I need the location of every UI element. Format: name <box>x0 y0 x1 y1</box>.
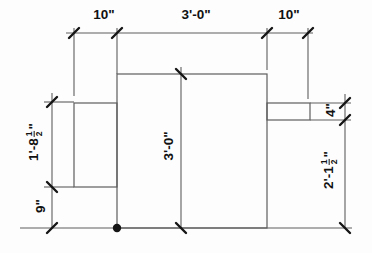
dim-text: 1'-8 <box>27 138 41 161</box>
dim-label-top-center: 3'-0" <box>181 8 210 22</box>
dim-label-left-lower: 9" <box>34 199 48 213</box>
elevation-drawing <box>0 0 372 253</box>
right-tab-rectangle <box>267 103 310 120</box>
main-rectangle <box>117 74 267 228</box>
dim-text: " <box>27 123 41 129</box>
dim-label-right-height: 2'-112" <box>319 151 339 189</box>
dim-text: " <box>322 151 336 157</box>
dim-text: 2'-1 <box>322 166 336 189</box>
dim-label-right-tab: 4" <box>324 103 338 117</box>
dim-label-left-height: 1'-812" <box>24 123 44 161</box>
stacked-fraction: 12 <box>320 158 340 165</box>
anchor-dot <box>113 224 121 232</box>
drawing-canvas: 10" 3'-0" 10" 1'-812" 9" 3'-0" 4" 2'-112… <box>0 0 372 253</box>
dim-label-center-height: 3'-0" <box>162 131 176 160</box>
stacked-fraction: 12 <box>25 130 45 137</box>
dim-label-top-right: 10" <box>278 8 299 22</box>
dim-label-top-left: 10" <box>93 8 114 22</box>
left-rectangle <box>74 103 117 187</box>
